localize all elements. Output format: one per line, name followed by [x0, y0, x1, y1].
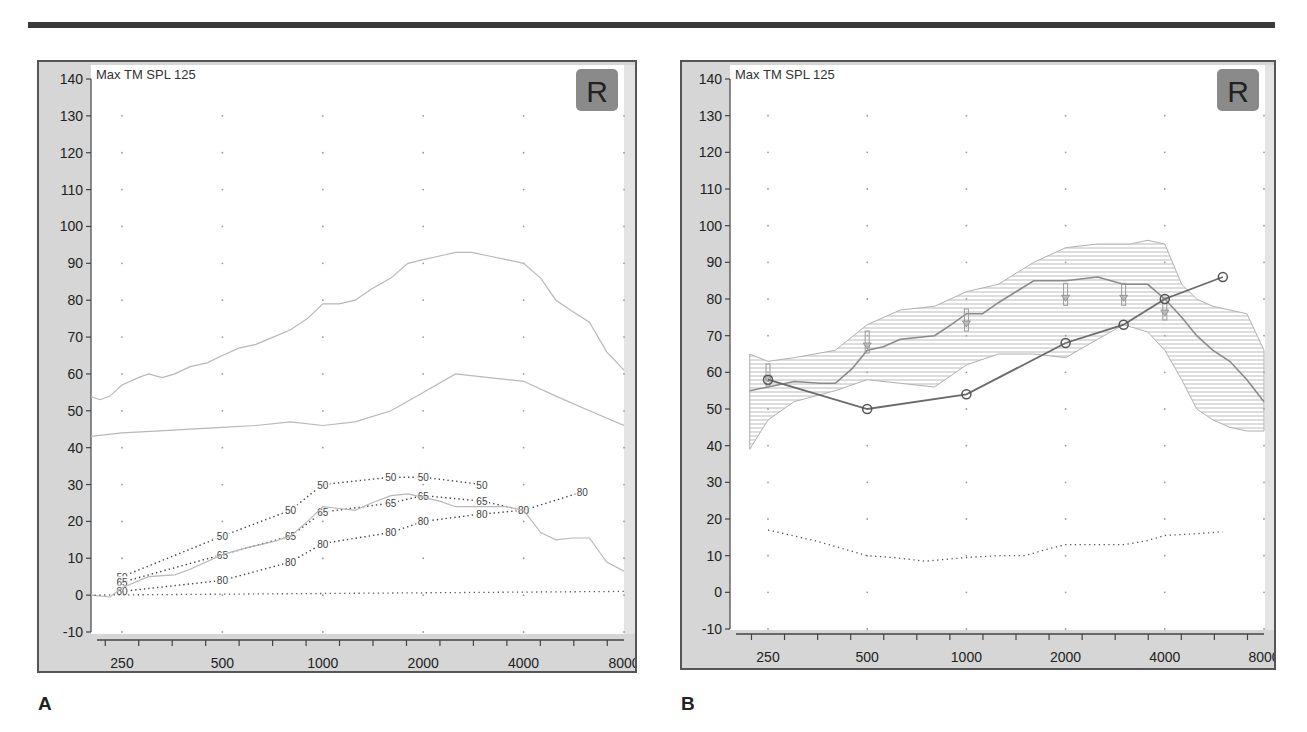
ear-badge-label: R: [1227, 75, 1249, 108]
y-tick-label: 0: [714, 584, 722, 600]
x-tick-label: 2000: [408, 655, 439, 671]
spl-level-label: 50: [418, 472, 430, 483]
ear-badge-label: R: [586, 75, 608, 108]
x-tick-label: 4000: [508, 655, 539, 671]
y-tick-label: 70: [706, 328, 722, 344]
y-tick-label: 140: [60, 71, 84, 87]
y-tick-label: 100: [60, 218, 84, 234]
spl-level-label: 50: [285, 505, 297, 516]
spl-level-label: 50: [217, 531, 229, 542]
y-tick-label: 20: [67, 513, 83, 529]
plot-area: [91, 65, 624, 634]
y-tick-label: 110: [700, 181, 723, 197]
x-tick-label: 2000: [1050, 649, 1081, 665]
spl-level-label: 80: [476, 509, 488, 520]
chart-a-plot: 1401301201101009080706050403020100-10250…: [39, 62, 635, 671]
panel-label-a: A: [38, 693, 52, 715]
y-tick-label: 80: [67, 292, 83, 308]
spl-level-label: 50: [476, 480, 488, 491]
y-tick-label: 140: [699, 71, 723, 87]
x-tick-label: 500: [211, 655, 235, 671]
x-tick-label: 250: [110, 655, 134, 671]
y-tick-label: 40: [706, 438, 722, 454]
spl-level-label: 80: [217, 575, 229, 586]
y-tick-label: 130: [699, 108, 723, 124]
y-tick-label: 40: [67, 440, 83, 456]
y-tick-label: -10: [63, 624, 83, 640]
y-tick-label: 120: [60, 145, 84, 161]
chart-title: Max TM SPL 125: [96, 67, 196, 82]
y-tick-label: 10: [706, 548, 722, 564]
y-tick-label: 120: [699, 144, 723, 160]
x-tick-label: 8000: [1248, 649, 1274, 665]
spl-level-label: 80: [418, 516, 430, 527]
y-tick-label: 90: [67, 255, 83, 271]
y-tick-label: 70: [67, 329, 83, 345]
x-tick-label: 500: [856, 649, 880, 665]
y-tick-label: 20: [706, 511, 722, 527]
panel-label-b: B: [681, 693, 695, 715]
y-tick-label: 60: [706, 364, 722, 380]
spl-level-label: 65: [317, 507, 329, 518]
spl-level-label: 80: [385, 527, 397, 538]
y-tick-label: 100: [699, 218, 723, 234]
spl-level-label: 80: [577, 487, 589, 498]
x-tick-label: 4000: [1149, 649, 1180, 665]
y-tick-label: 50: [67, 403, 83, 419]
y-tick-label: -10: [702, 621, 722, 637]
x-tick-label: 1000: [307, 655, 338, 671]
spl-level-label: 80: [285, 557, 297, 568]
chart-panel-a: 1401301201101009080706050403020100-10250…: [37, 60, 637, 673]
chart-panel-b: 1401301201101009080706050403020100-10250…: [680, 60, 1276, 670]
y-tick-label: 80: [706, 291, 722, 307]
spl-level-label: 50: [385, 472, 397, 483]
x-tick-label: 8000: [608, 655, 635, 671]
spl-level-label: 80: [317, 539, 329, 550]
spl-level-label: 50: [317, 480, 329, 491]
y-tick-label: 110: [61, 182, 84, 198]
y-tick-label: 90: [706, 254, 722, 270]
top-rule: [28, 22, 1275, 28]
x-tick-label: 1000: [951, 649, 982, 665]
x-tick-label: 250: [756, 649, 780, 665]
chart-b-plot: 1401301201101009080706050403020100-10250…: [682, 62, 1274, 668]
spl-level-label: 65: [476, 496, 488, 507]
y-tick-label: 10: [67, 550, 83, 566]
y-tick-label: 50: [706, 401, 722, 417]
y-tick-label: 30: [706, 474, 722, 490]
y-tick-label: 130: [60, 108, 84, 124]
chart-title: Max TM SPL 125: [735, 67, 835, 82]
y-tick-label: 0: [75, 587, 83, 603]
y-tick-label: 30: [67, 477, 83, 493]
spl-level-label: 65: [385, 498, 397, 509]
y-tick-label: 60: [67, 366, 83, 382]
